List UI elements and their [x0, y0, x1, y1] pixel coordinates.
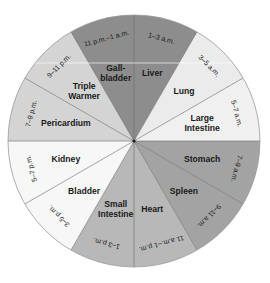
organ-label: Heart: [141, 204, 163, 214]
clock-center-dot: [132, 139, 135, 142]
organ-label: Liver: [142, 68, 163, 78]
organ-label: Lung: [173, 86, 194, 96]
organ-clock-diagram: Liver1–3 a.m.Lung3–5 a.m.LargeIntestine5…: [0, 0, 270, 283]
organ-label: Spleen: [170, 186, 198, 196]
organ-label: Kidney: [52, 154, 81, 164]
organ-label: Pericardium: [41, 118, 91, 128]
organ-label: Stomach: [184, 154, 220, 164]
organ-label: Bladder: [68, 186, 101, 196]
